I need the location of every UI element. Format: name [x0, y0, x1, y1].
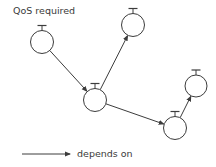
service-node-n1 — [31, 26, 54, 54]
node-circle — [31, 31, 54, 54]
qos-required-label: QoS required — [13, 5, 75, 16]
service-node-n2 — [84, 84, 107, 112]
node-circle — [185, 75, 207, 97]
qos-required-marker-icon — [192, 70, 201, 75]
depends-on-edge-n5-n4 — [180, 96, 191, 117]
service-node-n5 — [164, 112, 187, 140]
depends-on-edge-n2-n5 — [106, 104, 164, 124]
service-node-n3 — [122, 9, 145, 37]
node-circle — [84, 89, 107, 112]
nodes-layer — [31, 9, 208, 140]
depends-on-edge-n1-n2 — [50, 50, 87, 91]
depends-on-edge-n2-n3 — [100, 36, 127, 90]
legend-depends-on-label: depends on — [77, 148, 133, 159]
qos-required-marker-icon — [91, 84, 100, 89]
qos-required-marker-icon — [171, 112, 180, 117]
edges-layer — [50, 36, 191, 124]
service-node-n4 — [185, 70, 207, 97]
node-circle — [164, 117, 187, 140]
dependency-diagram — [0, 0, 216, 167]
node-circle — [122, 14, 145, 37]
qos-required-marker-icon — [129, 9, 138, 14]
qos-required-marker-icon — [38, 26, 47, 31]
